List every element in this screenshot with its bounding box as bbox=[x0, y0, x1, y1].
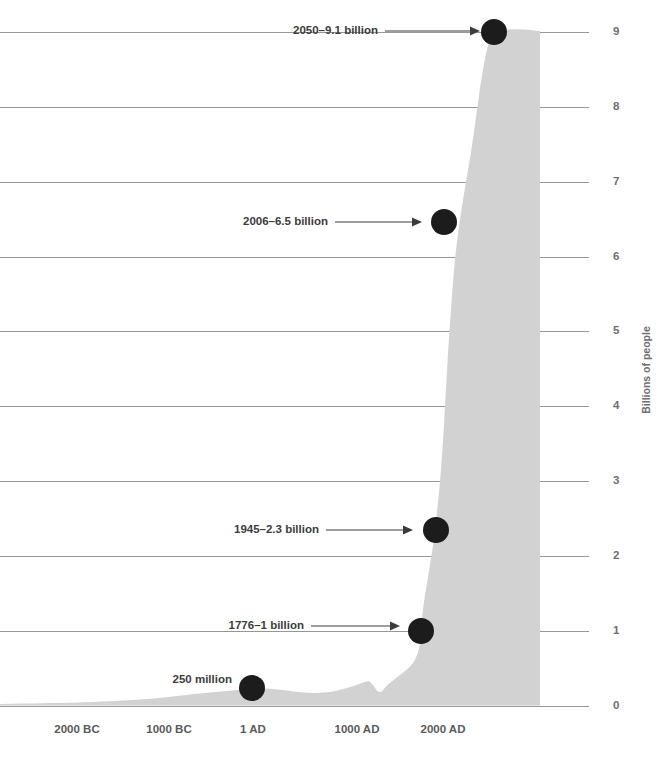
y-tick-label-6: 6 bbox=[613, 250, 619, 262]
x-tick-label-2000-bc: 2000 BC bbox=[54, 723, 99, 735]
annot-250-million-label: 250 million bbox=[173, 673, 232, 685]
annotation-1945-group: 1945–2.3 billion bbox=[234, 517, 449, 543]
x-tick-label-1000-ad: 1000 AD bbox=[335, 723, 380, 735]
annot-1945-label: 1945–2.3 billion bbox=[234, 523, 319, 535]
x-tick-label-2000-ad: 2000 AD bbox=[421, 723, 466, 735]
y-tick-label-0: 0 bbox=[613, 699, 619, 711]
y-axis-title: Billions of people bbox=[640, 326, 652, 414]
annot-2050-arrowhead bbox=[470, 27, 480, 36]
data-point-250-million bbox=[239, 675, 265, 701]
y-tick-label-3: 3 bbox=[613, 474, 619, 486]
chart-canvas: 2050–9.1 billion 2006–6.5 billion 1945–2… bbox=[0, 0, 663, 763]
annot-2050-label: 2050–9.1 billion bbox=[293, 24, 378, 36]
y-tick-label-2: 2 bbox=[613, 549, 619, 561]
annotation-2006-group: 2006–6.5 billion bbox=[243, 209, 457, 235]
y-tick-label-1: 1 bbox=[613, 624, 620, 636]
annot-1945-arrowhead bbox=[403, 526, 413, 535]
annot-1776-arrowhead bbox=[390, 622, 400, 631]
y-tick-label-4: 4 bbox=[613, 399, 620, 411]
y-tick-label-5: 5 bbox=[613, 324, 620, 336]
x-tick-label-1-ad: 1 AD bbox=[240, 723, 266, 735]
x-axis-tick-labels: 2000 BC 1000 BC 1 AD 1000 AD 2000 AD bbox=[54, 723, 465, 735]
y-axis-title-group: Billions of people bbox=[640, 326, 652, 414]
data-point-2050 bbox=[481, 19, 507, 45]
population-area-path bbox=[0, 29, 540, 705]
x-tick-label-1000-bc: 1000 BC bbox=[146, 723, 191, 735]
area-series-group bbox=[0, 29, 540, 705]
y-tick-label-8: 8 bbox=[613, 100, 620, 112]
y-tick-label-7: 7 bbox=[613, 175, 619, 187]
annot-1776-label: 1776–1 billion bbox=[229, 619, 304, 631]
data-point-1776 bbox=[408, 618, 434, 644]
population-growth-chart: 2050–9.1 billion 2006–6.5 billion 1945–2… bbox=[0, 0, 663, 763]
y-tick-label-9: 9 bbox=[613, 25, 619, 37]
y-axis-tick-labels: 9 8 7 6 5 4 3 2 1 0 bbox=[613, 25, 620, 711]
data-point-1945 bbox=[423, 517, 449, 543]
data-point-2006 bbox=[431, 209, 457, 235]
annot-2006-arrowhead bbox=[412, 218, 422, 227]
annot-2006-label: 2006–6.5 billion bbox=[243, 215, 328, 227]
